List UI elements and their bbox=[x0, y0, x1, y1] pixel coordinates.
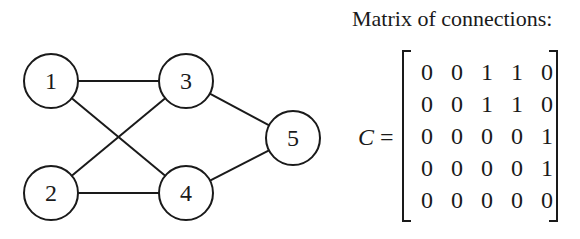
matrix-cell: 0 bbox=[502, 184, 532, 216]
matrix-cell: 0 bbox=[472, 184, 502, 216]
matrix-cell: 0 bbox=[412, 56, 442, 88]
svg-text:2: 2 bbox=[45, 180, 57, 206]
matrix-cell: 0 bbox=[472, 152, 502, 184]
network-graph: 12345 bbox=[0, 0, 340, 239]
matrix-cell: 1 bbox=[502, 88, 532, 120]
edge-3-5 bbox=[210, 94, 269, 126]
node-2: 2 bbox=[24, 166, 78, 220]
node-1: 1 bbox=[24, 54, 78, 108]
matrix-cells: 0011000110000010000100000 bbox=[412, 56, 562, 216]
node-3: 3 bbox=[159, 54, 213, 108]
matrix-label: C = bbox=[358, 124, 394, 151]
matrix-cell: 1 bbox=[502, 56, 532, 88]
node-4: 4 bbox=[159, 166, 213, 220]
matrix-cell: 0 bbox=[442, 152, 472, 184]
svg-text:4: 4 bbox=[180, 180, 192, 206]
edge-4-5 bbox=[210, 150, 269, 180]
matrix-cell: 0 bbox=[412, 152, 442, 184]
matrix-cell: 0 bbox=[502, 152, 532, 184]
right-bracket bbox=[549, 50, 558, 222]
matrix-cell: 1 bbox=[472, 56, 502, 88]
connection-matrix: 0011000110000010000100000 bbox=[402, 50, 558, 220]
node-5: 5 bbox=[266, 111, 320, 165]
svg-text:5: 5 bbox=[287, 125, 299, 151]
matrix-cell: 0 bbox=[442, 56, 472, 88]
matrix-cell: 0 bbox=[412, 88, 442, 120]
matrix-symbol: C bbox=[358, 124, 374, 150]
matrix-cell: 0 bbox=[442, 88, 472, 120]
matrix-cell: 0 bbox=[502, 120, 532, 152]
svg-text:3: 3 bbox=[180, 68, 192, 94]
matrix-cell: 1 bbox=[472, 88, 502, 120]
left-bracket bbox=[402, 50, 411, 222]
matrix-cell: 0 bbox=[412, 120, 442, 152]
matrix-cell: 0 bbox=[412, 184, 442, 216]
matrix-cell: 0 bbox=[472, 120, 502, 152]
matrix-cell: 0 bbox=[442, 184, 472, 216]
matrix-title: Matrix of connections: bbox=[352, 6, 552, 32]
matrix-cell: 0 bbox=[442, 120, 472, 152]
svg-text:1: 1 bbox=[45, 68, 57, 94]
equals-sign: = bbox=[380, 124, 394, 150]
